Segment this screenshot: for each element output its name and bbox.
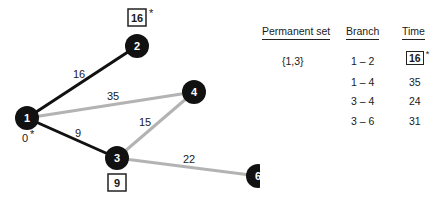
node-3: 3 <box>105 146 129 170</box>
svg-text:1: 1 <box>24 112 30 124</box>
header-branch: Branch <box>346 25 379 40</box>
node-1-time: 0 <box>22 132 28 144</box>
node-4: 4 <box>182 80 206 104</box>
header-time: Time <box>402 25 425 40</box>
row-3-branch: 3 – 4 <box>351 95 374 107</box>
row-4-time: 31 <box>409 115 421 127</box>
row-4-branch: 3 – 6 <box>351 115 374 127</box>
edge-1-2 <box>27 46 137 118</box>
edge-1-3 <box>27 118 117 158</box>
node-2-star: * <box>149 7 154 19</box>
svg-text:2: 2 <box>134 40 140 52</box>
edge-weight-1-4: 35 <box>107 90 119 102</box>
row-1-time-value: 16 <box>406 51 424 65</box>
row-1-star: * <box>426 49 430 59</box>
node-1-star: * <box>30 128 35 140</box>
svg-text:4: 4 <box>191 86 198 98</box>
network-graph: 16 35 9 15 22 1 2 3 4 6 0 * 16 * 9 <box>0 0 260 204</box>
header-permanent-set: Permanent set <box>262 25 330 40</box>
node-6: 6 <box>246 164 260 188</box>
edge-weight-1-2: 16 <box>73 68 85 80</box>
node-2-time: 16 <box>131 12 143 24</box>
node-3-time: 9 <box>114 177 120 189</box>
row-2-time: 35 <box>409 76 421 88</box>
row-1-time: 16* <box>406 52 429 64</box>
row-1-branch: 1 – 2 <box>351 55 374 67</box>
row-3-time: 24 <box>409 95 421 107</box>
node-2: 2 <box>125 34 149 58</box>
edge-weight-1-3: 9 <box>75 127 81 139</box>
permanent-set-value: {1,3} <box>282 55 304 67</box>
node-1: 1 <box>15 106 39 130</box>
edge-weight-3-6: 22 <box>183 153 195 165</box>
svg-text:3: 3 <box>114 152 120 164</box>
svg-text:6: 6 <box>255 170 260 182</box>
row-2-branch: 1 – 4 <box>351 76 374 88</box>
edge-weight-3-4: 15 <box>139 116 151 128</box>
